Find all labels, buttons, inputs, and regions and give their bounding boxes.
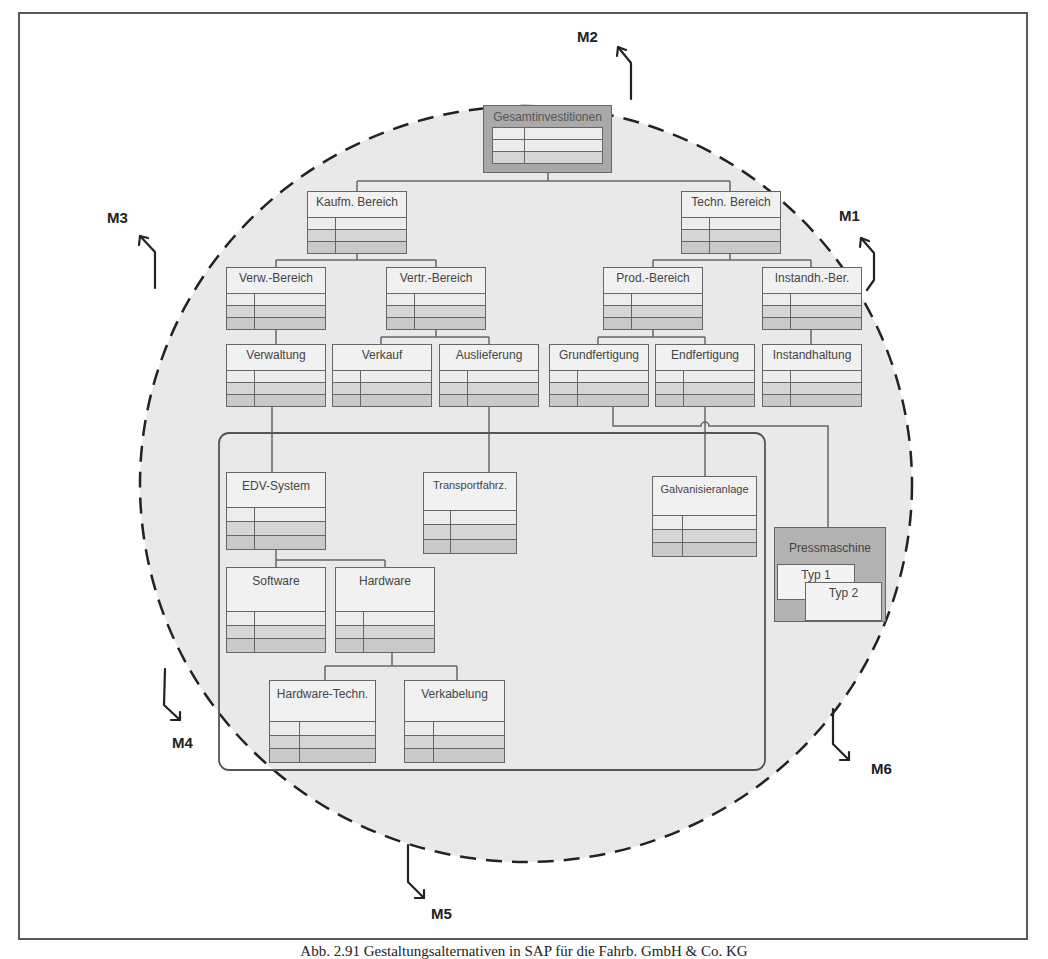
node-kaufm-bereich: Kaufm. Bereich [307,191,407,254]
node-transportfahrz: Transportfahrz. [423,472,517,554]
node-edv-system: EDV-System [226,472,326,550]
node-title: Verkauf [333,345,431,371]
node-endfertigung: Endfertigung [655,344,755,407]
node-grundfertigung: Grundfertigung [549,344,649,407]
node-verkabelung: Verkabelung [404,680,505,763]
node-gesamtinvestitionen: Gesamtinvestitionen [483,105,612,173]
node-verwaltung: Verwaltung [226,344,326,407]
node-title: Techn. Bereich [682,192,780,218]
node-prod-bereich: Prod.-Bereich [603,267,703,330]
figure-caption: Abb. 2.91 Gestaltungsalternativen in SAP… [0,943,1048,959]
node-title: Instandhaltung [763,345,861,371]
node-title: Instandh.-Ber. [763,268,861,294]
node-verw-bereich: Verw.-Bereich [226,267,326,330]
node-title: Verkabelung [405,681,504,722]
node-title: Endfertigung [656,345,754,371]
node-title: Hardware [336,568,434,612]
node-software: Software [226,567,326,653]
node-title: Verw.-Bereich [227,268,325,294]
node-title: EDV-System [227,473,325,508]
node-title: Kaufm. Bereich [308,192,406,218]
marker-m3: M3 [107,209,128,226]
node-title: Verwaltung [227,345,325,371]
node-title: Pressmaschine [775,541,885,555]
node-instandhaltung: Instandhaltung [762,344,862,407]
marker-m6: M6 [871,760,892,777]
node-pressmaschine: Pressmaschine Typ 1 Typ 2 [774,527,886,622]
node-title: Software [227,568,325,612]
node-galvanisieranlage: Galvanisieranlage [652,476,757,557]
marker-m5: M5 [431,905,452,922]
node-title: Transportfahrz. [424,473,516,511]
node-hardware: Hardware [335,567,435,653]
node-title: Hardware-Techn. [270,681,375,722]
node-auslieferung: Auslieferung [439,344,539,407]
node-hardware-techn: Hardware-Techn. [269,680,376,763]
node-title: Prod.-Bereich [604,268,702,294]
marker-m4: M4 [172,734,193,751]
node-title: Gesamtinvestitionen [492,106,603,127]
node-vertr-bereich: Vertr.-Bereich [386,267,486,330]
node-techn-bereich: Techn. Bereich [681,191,781,254]
node-title: Auslieferung [440,345,538,371]
node-verkauf: Verkauf [332,344,432,407]
press-type-2: Typ 2 [805,582,882,621]
marker-m1: M1 [839,207,860,224]
node-title: Grundfertigung [550,345,648,371]
node-instandh-ber: Instandh.-Ber. [762,267,862,330]
marker-m2: M2 [577,28,598,45]
node-title: Galvanisieranlage [653,477,756,516]
node-title: Vertr.-Bereich [387,268,485,294]
